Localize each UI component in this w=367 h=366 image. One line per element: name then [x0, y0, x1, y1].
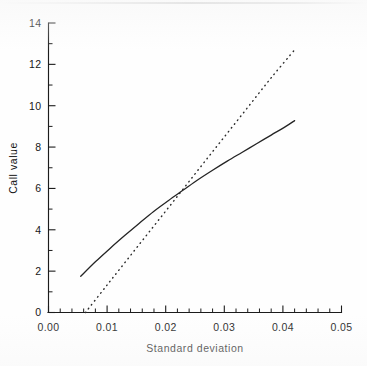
- y-tick-label: 12: [29, 58, 41, 70]
- x-axis-tick-labels: 0.000.010.020.030.040.05: [37, 321, 352, 333]
- x-axis-title: Standard deviation: [146, 342, 243, 354]
- x-axis-ticks: [49, 306, 342, 313]
- y-tick-label: 14: [29, 17, 41, 29]
- y-axis-ticks: [49, 23, 56, 313]
- x-tick-label: 0.02: [155, 321, 177, 333]
- y-axis-tick-labels: 02468101214: [29, 17, 41, 319]
- y-tick-label: 6: [35, 182, 41, 194]
- y-tick-label: 10: [29, 100, 41, 112]
- data-series-layer: [81, 50, 295, 313]
- y-tick-label: 8: [35, 141, 41, 153]
- x-tick-label: 0.05: [330, 321, 352, 333]
- x-tick-label: 0.01: [96, 321, 118, 333]
- plot-canvas: 0.000.010.020.030.040.05 02468101214 Sta…: [0, 0, 367, 366]
- series-solid-curve: [81, 121, 295, 277]
- y-tick-label: 2: [35, 265, 41, 277]
- x-tick-label: 0.00: [37, 321, 59, 333]
- axis-spines: [48, 23, 342, 313]
- y-tick-label: 0: [35, 306, 41, 318]
- series-dotted-line: [85, 50, 294, 313]
- x-tick-label: 0.04: [272, 321, 294, 333]
- y-axis-title: Call value: [7, 142, 19, 194]
- chart-figure: 0.000.010.020.030.040.05 02468101214 Sta…: [0, 0, 367, 366]
- x-tick-label: 0.03: [213, 321, 235, 333]
- y-tick-label: 4: [35, 224, 41, 236]
